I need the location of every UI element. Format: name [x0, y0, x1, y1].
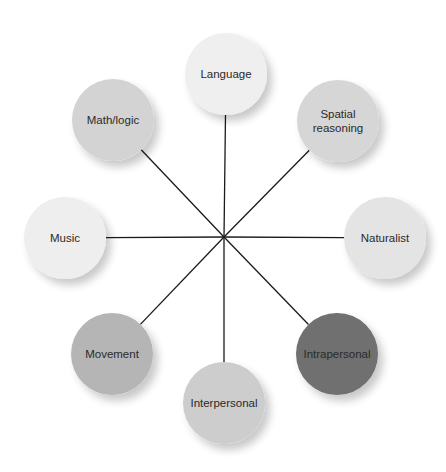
node-label-line: Music [50, 232, 80, 244]
node-music: Music [24, 197, 106, 279]
node-naturalist: Naturalist [344, 197, 426, 279]
spoke-line-naturalist [224, 237, 344, 238]
node-label-math-logic: Math/logic [87, 114, 140, 126]
node-label-intrapersonal: Intrapersonal [303, 348, 370, 360]
node-label-line: Intrapersonal [303, 348, 370, 360]
node-label-line: Movement [85, 348, 139, 360]
node-label-line: Spatial [320, 108, 355, 120]
node-interpersonal: Interpersonal [183, 362, 265, 444]
node-label-line: Naturalist [361, 232, 410, 244]
node-label-interpersonal: Interpersonal [190, 397, 257, 409]
node-label-line: Math/logic [87, 114, 140, 126]
node-label-line: reasoning [313, 122, 364, 134]
spoke-line-intrapersonal [224, 237, 309, 325]
spoke-line-movement [140, 237, 224, 324]
node-language: Language [185, 33, 267, 115]
multiple-intelligences-diagram: LanguageSpatialreasoningNaturalistIntrap… [0, 0, 446, 472]
node-label-line: Language [200, 68, 251, 80]
node-label-movement: Movement [85, 348, 139, 360]
node-math-logic: Math/logic [72, 79, 154, 161]
node-intrapersonal: Intrapersonal [296, 313, 378, 395]
node-label-music: Music [50, 232, 80, 244]
node-label-naturalist: Naturalist [361, 232, 410, 244]
node-movement: Movement [71, 313, 153, 395]
spoke-line-language [224, 115, 226, 237]
node-spatial-reasoning: Spatialreasoning [297, 80, 379, 162]
node-label-line: Interpersonal [190, 397, 257, 409]
node-circle-spatial-reasoning [297, 80, 379, 162]
spoke-line-math-logic [141, 150, 224, 237]
spoke-line-spatial-reasoning [224, 150, 309, 237]
spoke-line-music [106, 237, 224, 238]
node-label-language: Language [200, 68, 251, 80]
